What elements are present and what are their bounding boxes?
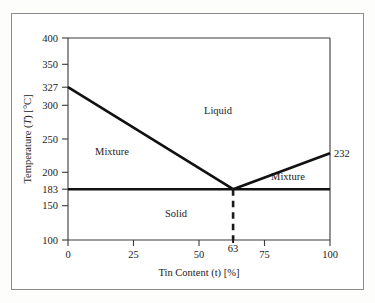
y-axis-ticks xyxy=(62,38,68,240)
annotation-melting-point-tin: 232 xyxy=(334,148,350,159)
y-tick-label-100: 100 xyxy=(42,235,58,246)
y-tick-label-250: 250 xyxy=(42,134,58,145)
liquidus-lead-rich-line xyxy=(68,87,233,189)
svg-text:Temperature (T) [°C]: Temperature (T) [°C] xyxy=(22,94,34,183)
x-axis-tick-labels: 0 25 50 63 75 100 xyxy=(65,243,338,260)
x-tick-label-100: 100 xyxy=(322,249,338,260)
y-tick-label-350: 350 xyxy=(42,59,58,70)
x-axis-title: Tin Content (t) [%] xyxy=(159,267,240,279)
x-tick-label-75: 75 xyxy=(259,249,270,260)
y-tick-label-150: 150 xyxy=(42,200,58,211)
x-tick-label-50: 50 xyxy=(194,249,205,260)
y-axis-title-post: ) [°C] xyxy=(22,94,34,118)
x-tick-label-25: 25 xyxy=(128,249,139,260)
x-tick-label-63: 63 xyxy=(228,243,239,254)
region-label-mixture-right: Mixture xyxy=(271,171,305,182)
plot-frame xyxy=(68,38,330,240)
phase-diagram-svg: 400 350 327 300 250 200 183 150 100 xyxy=(0,0,375,303)
figure-page: 400 350 327 300 250 200 183 150 100 xyxy=(0,0,375,303)
region-label-mixture-left: Mixture xyxy=(95,146,129,157)
y-tick-label-327: 327 xyxy=(42,82,58,93)
x-axis-ticks xyxy=(68,236,330,246)
y-tick-label-400: 400 xyxy=(42,33,58,44)
y-tick-label-300: 300 xyxy=(42,100,58,111)
y-axis-title: Temperature (T) [°C] xyxy=(22,94,34,183)
y-tick-label-200: 200 xyxy=(42,167,58,178)
region-label-liquid: Liquid xyxy=(204,105,233,116)
y-axis-title-pre: Temperature ( xyxy=(22,124,34,184)
y-tick-label-183: 183 xyxy=(42,184,58,195)
region-label-solid: Solid xyxy=(165,208,188,219)
x-tick-label-0: 0 xyxy=(65,249,70,260)
phase-diagram-figure: 400 350 327 300 250 200 183 150 100 xyxy=(0,0,375,303)
y-axis-tick-labels: 400 350 327 300 250 200 183 150 100 xyxy=(42,33,58,246)
